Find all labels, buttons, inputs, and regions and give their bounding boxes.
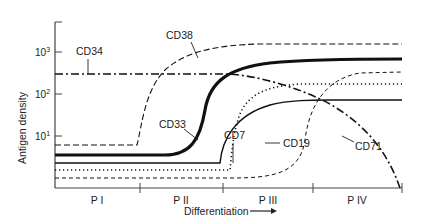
y-tick-label-1000: 103 [35,46,50,58]
svg-text:CD33: CD33 [159,118,186,130]
svg-text:CD71: CD71 [355,140,382,152]
label-cd38: CD38 [166,29,198,58]
label-cd34: CD34 [76,45,103,74]
y-tick-label-10: 101 [35,130,50,142]
svg-text:CD7: CD7 [224,129,245,141]
stage-label-p4: P IV [347,194,367,206]
label-cd71: CD71 [342,136,382,152]
svg-text:CD38: CD38 [166,29,193,41]
curve-cd19 [55,84,402,170]
svg-text:CD34: CD34 [76,45,103,57]
antigen-density-chart: 103 102 101 Antigen density P I P II P I… [0,0,422,216]
stage-label-p1: P I [91,194,104,206]
y-tick-label-100: 102 [35,88,50,100]
curve-cd71 [55,72,402,178]
stage-label-p3: P III [259,194,277,206]
axes [55,22,402,193]
svg-text:CD19: CD19 [283,137,310,149]
arrow-right-icon [250,208,277,214]
label-cd7: CD7 [224,129,245,163]
x-axis-title: Differentiation [184,205,249,216]
label-cd33: CD33 [159,118,198,140]
y-axis-title: Antigen density [16,91,28,164]
label-cd19: CD19 [265,137,310,149]
